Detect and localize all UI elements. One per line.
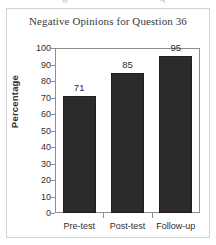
- bar-value-label: 95: [156, 42, 196, 53]
- bar-value-label: 71: [59, 82, 99, 93]
- y-axis-tick-label: 10: [26, 192, 51, 202]
- x-axis-divider: [103, 213, 104, 218]
- y-axis-tick-label: 0: [26, 208, 51, 218]
- y-axis-tick-label: 30: [26, 159, 51, 169]
- x-axis-tick-labels: Pre-testPost-testFollow-up: [55, 221, 200, 237]
- clipped-text-right: Q: [158, 0, 166, 3]
- bar: [111, 73, 144, 213]
- y-axis-tick-mark: [51, 213, 55, 214]
- y-axis-tick-label: 50: [26, 126, 51, 136]
- y-axis-tick-label: 70: [26, 93, 51, 103]
- y-axis-tick-label: 20: [26, 175, 51, 185]
- bar: [159, 56, 192, 213]
- y-axis-tick-label: 90: [26, 60, 51, 70]
- y-axis-title: Percentage: [9, 62, 20, 142]
- clipped-text-row-above: g Q: [0, 0, 216, 7]
- clipped-text-left: g: [62, 0, 68, 3]
- bar-value-label: 85: [108, 59, 148, 70]
- y-axis-tick-label: 40: [26, 142, 51, 152]
- chart-title: Negative Opinions for Question 36: [6, 15, 210, 27]
- y-axis-tick-label: 100: [26, 43, 51, 53]
- y-axis-tick-label: 80: [26, 76, 51, 86]
- y-axis-tick-label: 60: [26, 109, 51, 119]
- bar: [63, 96, 96, 213]
- x-axis-divider: [152, 213, 153, 218]
- bar-series: [55, 48, 200, 213]
- y-axis-tick-labels: 1009080706050403020100: [26, 48, 51, 213]
- x-axis-tick-label: Follow-up: [146, 221, 206, 231]
- chart-figure: g Q Negative Opinions for Question 36 Pe…: [0, 0, 216, 245]
